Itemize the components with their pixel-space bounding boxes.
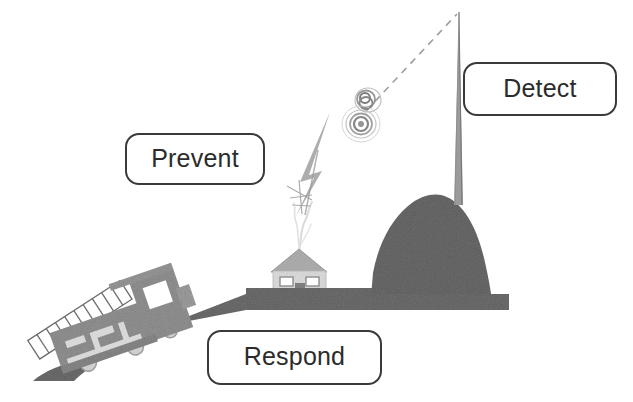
radio-tower [454,12,463,205]
label-text-respond: Respond [244,344,345,371]
label-text-detect: Detect [503,76,576,103]
label-box-detect[interactable]: Detect [463,62,617,116]
dashed-signal-path [366,14,457,111]
label-box-prevent[interactable]: Prevent [125,133,265,185]
diagram-canvas: Prevent Detect Respond [0,0,633,402]
mountain-hill [371,195,509,310]
label-text-prevent: Prevent [151,146,239,173]
smoke-plume [294,202,312,250]
label-box-respond[interactable]: Respond [207,330,382,385]
radio-signal-rings [342,88,381,142]
lightning-bolt [287,112,330,216]
